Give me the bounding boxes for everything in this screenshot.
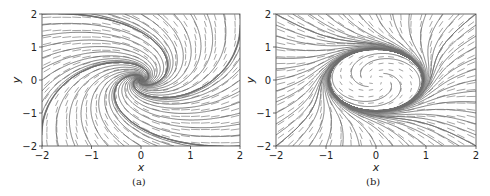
y-tick-label: −2 bbox=[256, 141, 271, 152]
x-axis-label: x bbox=[137, 161, 145, 174]
plot-area bbox=[41, 14, 240, 147]
y-tick-label: 2 bbox=[31, 9, 37, 20]
axes-frame bbox=[276, 14, 476, 146]
streamlines bbox=[41, 14, 240, 147]
panel-b: −2−1012−2−1012xy (b) bbox=[245, 0, 490, 196]
plot-area bbox=[276, 14, 476, 146]
y-tick-label: −1 bbox=[22, 108, 37, 119]
panel-a: −2−1012−2−1012xy (a) bbox=[0, 0, 245, 196]
x-tick-label: 0 bbox=[138, 150, 144, 161]
y-tick-label: −2 bbox=[22, 141, 37, 152]
y-tick-label: 1 bbox=[265, 42, 271, 53]
x-tick-label: 2 bbox=[237, 150, 243, 161]
caption-b: (b) bbox=[366, 176, 380, 187]
phase-portrait-a: −2−1012−2−1012xy bbox=[0, 0, 245, 196]
y-tick-label: 1 bbox=[31, 42, 37, 53]
y-tick-label: 0 bbox=[31, 75, 37, 86]
vector-field-arrows bbox=[277, 14, 476, 145]
y-axis-label: y bbox=[245, 76, 257, 84]
streamlines bbox=[276, 14, 476, 146]
x-tick-label: 1 bbox=[187, 150, 193, 161]
y-tick-label: 0 bbox=[265, 75, 271, 86]
x-tick-label: 2 bbox=[473, 150, 479, 161]
x-tick-label: −2 bbox=[269, 150, 284, 161]
x-tick-label: −1 bbox=[319, 150, 334, 161]
x-tick-label: 1 bbox=[423, 150, 429, 161]
y-tick-label: 2 bbox=[265, 9, 271, 20]
x-tick-label: −2 bbox=[35, 150, 50, 161]
caption-a: (a) bbox=[132, 176, 146, 187]
phase-portrait-b: −2−1012−2−1012xy bbox=[245, 0, 490, 196]
x-axis-label: x bbox=[372, 161, 380, 174]
y-axis-label: y bbox=[10, 76, 23, 84]
y-tick-label: −1 bbox=[256, 108, 271, 119]
x-tick-label: −1 bbox=[84, 150, 99, 161]
x-tick-label: 0 bbox=[373, 150, 379, 161]
